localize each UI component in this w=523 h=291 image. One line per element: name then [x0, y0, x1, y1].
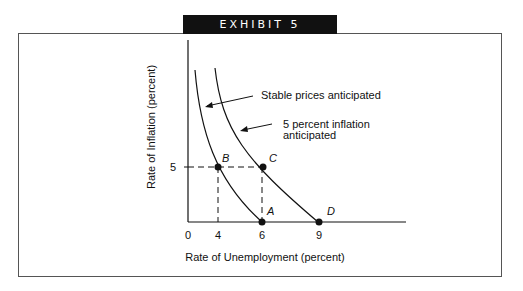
point-a [259, 219, 266, 226]
x-tick-0: 0 [185, 229, 191, 241]
point-b [215, 164, 222, 171]
label-c: C [269, 152, 277, 164]
annotation-inflation-line2: anticipated [283, 129, 336, 141]
x-tick-4: 4 [215, 229, 221, 241]
label-b: B [222, 152, 229, 164]
point-c [260, 164, 267, 171]
y-axis-label: Rate of Inflation (percent) [145, 65, 157, 189]
x-tick-9: 9 [316, 229, 322, 241]
arrowhead-inflation-icon [240, 126, 248, 132]
phillips-curve-chart: B C A D Stable prices anticipated 5 perc… [0, 0, 523, 291]
arrowhead-stable-icon [205, 102, 213, 108]
label-d: D [327, 205, 335, 217]
label-a: A [266, 205, 274, 217]
y-tick-label-5: 5 [170, 161, 176, 173]
x-tick-6: 6 [259, 229, 265, 241]
x-axis-label: Rate of Unemployment (percent) [185, 251, 345, 263]
point-d [316, 219, 323, 226]
arrow-stable [207, 96, 253, 106]
annotation-stable-prices: Stable prices anticipated [261, 89, 381, 101]
curve-stable-prices [195, 70, 262, 222]
